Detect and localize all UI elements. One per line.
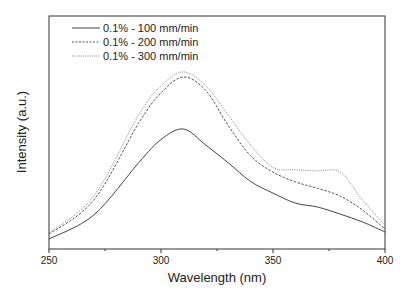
plot-frame [49, 16, 385, 249]
legend: 0.1% - 100 mm/min 0.1% - 200 mm/min 0.1%… [72, 22, 198, 62]
legend-label-200: 0.1% - 200 mm/min [103, 36, 198, 48]
legend-label-300: 0.1% - 300 mm/min [103, 50, 198, 62]
series-line-dotted [49, 72, 385, 233]
x-tick-label: 250 [41, 255, 58, 266]
x-axis-title: Wavelength (nm) [168, 270, 267, 285]
series-line-solid [49, 129, 385, 239]
legend-label-100: 0.1% - 100 mm/min [103, 22, 198, 34]
spectrum-chart: 250300350400 Wavelength (nm) Intensity (… [0, 0, 411, 302]
series-line-dashed [49, 77, 385, 234]
x-tick-label: 350 [265, 255, 282, 266]
series-layer [49, 72, 385, 239]
x-tick-label: 400 [377, 255, 394, 266]
x-tick-label: 300 [153, 255, 170, 266]
y-axis-title: Intensity (a.u.) [14, 91, 29, 173]
x-axis-ticks: 250300350400 [41, 249, 394, 266]
